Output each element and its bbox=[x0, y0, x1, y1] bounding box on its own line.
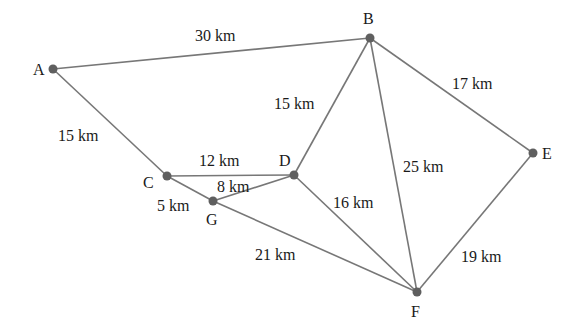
node-a bbox=[49, 65, 58, 74]
node-label-c: C bbox=[143, 174, 154, 191]
node-label-b: B bbox=[363, 10, 374, 27]
node-f bbox=[413, 288, 422, 297]
edge-weight-label: 19 km bbox=[461, 248, 502, 265]
node-labels-layer: ABCDGEF bbox=[33, 10, 552, 320]
edge-weight-label: 17 km bbox=[452, 75, 493, 92]
edge-weight-label: 8 km bbox=[217, 178, 250, 195]
node-b bbox=[366, 34, 375, 43]
node-label-a: A bbox=[33, 61, 45, 78]
network-graph: 30 km15 km15 km17 km25 km12 km8 km5 km16… bbox=[0, 0, 585, 336]
node-label-d: D bbox=[279, 152, 291, 169]
edge-weight-label: 12 km bbox=[199, 152, 240, 169]
edge-weight-label: 15 km bbox=[58, 127, 99, 144]
edge-weight-label: 5 km bbox=[157, 197, 190, 214]
edge-b-e bbox=[370, 38, 533, 153]
edge-weight-label: 16 km bbox=[333, 194, 374, 211]
edge-weight-label: 15 km bbox=[274, 95, 315, 112]
edge-g-f bbox=[213, 201, 417, 292]
node-e bbox=[529, 149, 538, 158]
node-label-f: F bbox=[411, 303, 420, 320]
node-c bbox=[163, 172, 172, 181]
node-d bbox=[290, 171, 299, 180]
node-g bbox=[209, 197, 218, 206]
edge-weight-label: 21 km bbox=[255, 246, 296, 263]
edge-weight-label: 25 km bbox=[403, 158, 444, 175]
node-label-e: E bbox=[542, 145, 552, 162]
edge-a-c bbox=[53, 69, 167, 176]
node-label-g: G bbox=[206, 211, 218, 228]
edge-weight-label: 30 km bbox=[195, 27, 236, 44]
edge-c-d bbox=[167, 175, 294, 176]
